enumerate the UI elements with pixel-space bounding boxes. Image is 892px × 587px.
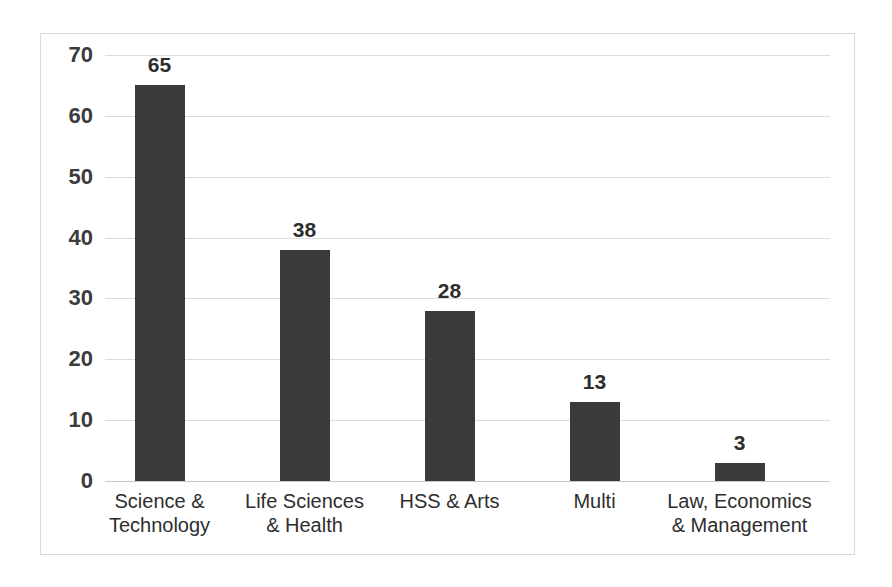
bar-value-label: 13 [583,370,606,394]
y-axis-tick-label: 40 [69,225,93,251]
bar-value-label: 3 [734,431,746,455]
y-axis-tick-labels: 010203040506070 [45,55,93,481]
plot-area: 653828133 [105,55,830,481]
gridline [105,55,830,56]
chart-canvas: 010203040506070 653828133 Science & Tech… [0,0,892,587]
y-axis-tick-label: 20 [69,346,93,372]
bar-value-label: 28 [438,279,461,303]
bar[interactable] [570,402,620,481]
gridline [105,116,830,117]
y-axis-tick-label: 50 [69,164,93,190]
bar-value-label: 65 [148,53,171,77]
y-axis-tick-label: 0 [81,468,93,494]
bar[interactable] [135,85,185,481]
gridline [105,298,830,299]
y-axis-tick-label: 10 [69,407,93,433]
bar-value-label: 38 [293,218,316,242]
bar[interactable] [715,463,765,481]
bar[interactable] [280,250,330,481]
y-axis-tick-label: 60 [69,103,93,129]
bar[interactable] [425,311,475,481]
gridline [105,177,830,178]
y-axis-tick-label: 70 [69,42,93,68]
gridline [105,238,830,239]
y-axis-tick-label: 30 [69,285,93,311]
gridline [105,481,830,482]
